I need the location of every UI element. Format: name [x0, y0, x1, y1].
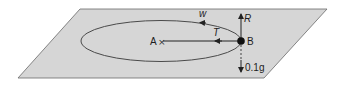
particle-b [237, 37, 245, 45]
circular-motion-diagram: w T × A R 0.1g B [0, 0, 340, 87]
tension-label: T [213, 27, 220, 38]
horizontal-plane [18, 9, 327, 78]
reaction-label: R [244, 13, 251, 24]
point-b-label: B [247, 36, 254, 47]
point-a-label: A [150, 36, 157, 47]
velocity-label: w [199, 8, 207, 19]
weight-label: 0.1g [245, 62, 264, 73]
cross-icon: × [158, 37, 166, 47]
velocity-arrow-icon [200, 23, 206, 24]
